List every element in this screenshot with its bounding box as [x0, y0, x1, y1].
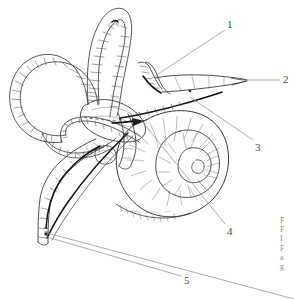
label-1: 1: [227, 19, 233, 30]
caption-line-6: g: [280, 262, 294, 271]
label-3: 3: [255, 142, 261, 153]
caption-line-3: I: [280, 234, 294, 243]
inner-ear-drawing: [0, 0, 294, 299]
label-2: 2: [283, 74, 289, 85]
figure-root: 1 2 3 4 5 F F I F a g: [0, 0, 294, 299]
caption-line-1: F: [280, 216, 294, 225]
caption-line-4: F: [280, 244, 294, 253]
label-4: 4: [227, 226, 233, 237]
caption-line-2: F: [280, 225, 294, 234]
caption-line-5: a: [280, 253, 294, 262]
caption-fragment: F F I F a g: [280, 216, 294, 271]
label-5: 5: [184, 275, 190, 286]
